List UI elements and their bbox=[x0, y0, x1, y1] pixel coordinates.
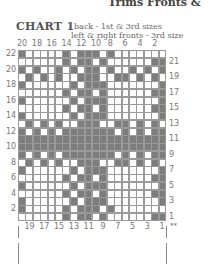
row-label-right: 13 bbox=[169, 119, 179, 128]
knitting-chart-grid bbox=[18, 50, 166, 221]
size-marker-left-lower bbox=[18, 243, 19, 264]
row-label-right: 7 bbox=[169, 165, 174, 174]
column-label-top: 20 bbox=[17, 39, 27, 48]
row-label-left: 20 bbox=[6, 65, 16, 74]
column-label-top: 10 bbox=[91, 39, 101, 48]
size-marker-right-lower bbox=[166, 243, 167, 264]
grid-cell bbox=[159, 213, 167, 221]
column-label-bottom: 11 bbox=[84, 222, 94, 231]
row-label-left: 10 bbox=[6, 142, 16, 151]
row-label-right: 11 bbox=[169, 134, 179, 143]
column-label-bottom: 19 bbox=[24, 222, 34, 231]
size-marker-left-upper bbox=[18, 226, 19, 238]
row-label-left: 18 bbox=[6, 80, 16, 89]
column-label-top: 4 bbox=[137, 39, 142, 48]
chart-subtitle-1: back - 1st & 3rd sizes bbox=[74, 22, 162, 31]
column-label-bottom: 1 bbox=[160, 222, 165, 231]
column-label-top: 16 bbox=[47, 39, 57, 48]
row-label-right: 21 bbox=[169, 57, 179, 66]
column-label-top: 8 bbox=[108, 39, 113, 48]
column-label-top: 12 bbox=[76, 39, 86, 48]
column-label-bottom: 9 bbox=[100, 222, 105, 231]
column-label-top: 14 bbox=[61, 39, 71, 48]
column-label-top: 18 bbox=[32, 39, 42, 48]
row-label-left: 14 bbox=[6, 111, 16, 120]
row-label-left: 22 bbox=[6, 49, 16, 58]
row-label-right: 3 bbox=[169, 196, 174, 205]
row-label-left: 8 bbox=[11, 158, 16, 167]
page-header-fragment: Trims Fronts & bbox=[108, 0, 201, 9]
chart-title: CHART 1 bbox=[16, 20, 74, 33]
column-label-bottom: 17 bbox=[39, 222, 49, 231]
column-label-bottom: 5 bbox=[130, 222, 135, 231]
row-label-right: 9 bbox=[169, 150, 174, 159]
row-label-left: 12 bbox=[6, 127, 16, 136]
row-label-left: 16 bbox=[6, 96, 16, 105]
row-label-right: 15 bbox=[169, 103, 179, 112]
row-label-right: 17 bbox=[169, 88, 179, 97]
column-label-bottom: 7 bbox=[115, 222, 120, 231]
column-label-bottom: 3 bbox=[145, 222, 150, 231]
row-label-right: 5 bbox=[169, 181, 174, 190]
column-label-bottom: 15 bbox=[54, 222, 64, 231]
row-label-left: 2 bbox=[11, 204, 16, 213]
row-label-left: 6 bbox=[11, 173, 16, 182]
column-label-top: 6 bbox=[123, 39, 128, 48]
row-label-right: 1 bbox=[169, 212, 174, 221]
row-label-left: 4 bbox=[11, 189, 16, 198]
column-label-bottom: 13 bbox=[69, 222, 79, 231]
size-marker-right-upper bbox=[166, 226, 167, 238]
row-label-right: 19 bbox=[169, 72, 179, 81]
column-label-top: 2 bbox=[152, 39, 157, 48]
size-marker-stars: ** bbox=[170, 222, 177, 230]
